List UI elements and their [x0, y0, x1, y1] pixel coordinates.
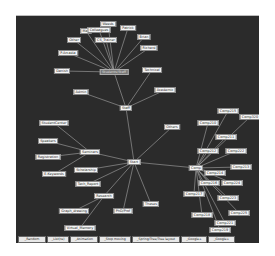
toolbar-button-5[interactable]: _Google+ — [181, 236, 207, 244]
graph-node-comp217[interactable]: Comp217 — [184, 191, 205, 197]
graph-node-technical[interactable]: Technical — [142, 67, 162, 73]
graph-node-comp211[interactable]: Comp211 — [216, 134, 237, 140]
graph-edge — [114, 72, 126, 108]
graph-edge — [126, 108, 134, 162]
graph-node-hub_right[interactable]: Comp — [189, 165, 203, 171]
toolbar-button-4[interactable]: _Spring/Tree/Tree layout — [132, 236, 180, 244]
graph-node-comp219[interactable]: Comp219 — [210, 227, 231, 233]
graph-node-staff[interactable]: Staff — [120, 105, 132, 111]
graph-node-cs_trainer[interactable]: CS_Trainer — [95, 37, 117, 43]
graph-node-comp214[interactable]: Comp214 — [205, 170, 226, 176]
graph-node-scholarship[interactable]: Scholarship — [74, 167, 98, 173]
graph-node-comp223[interactable]: Comp223 — [218, 195, 239, 201]
graph-node-graph_drawing[interactable]: Graph_drawing — [59, 208, 89, 214]
graph-node-speakers[interactable]: Speakers — [38, 138, 58, 144]
graph-edge — [134, 162, 151, 204]
graph-node-tech_report[interactable]: Tech_Report — [76, 181, 101, 187]
graph-node-colleagues[interactable]: Colleagues — [87, 27, 110, 33]
graph-node-comp225[interactable]: Comp225 — [229, 210, 250, 216]
graph-edge — [123, 162, 134, 211]
graph-node-academic[interactable]: Academic — [155, 87, 176, 93]
graph-edge — [54, 123, 90, 152]
graph-edges — [16, 16, 259, 243]
toolbar-button-6[interactable]: _Google+ — [208, 236, 235, 244]
graph-node-research[interactable]: Research — [94, 193, 114, 199]
graph-node-comp222[interactable]: Comp222 — [226, 148, 247, 154]
toolbar-button-0[interactable]: _Random — [18, 236, 46, 244]
graph-edge — [106, 40, 114, 72]
toolbar-button-3[interactable]: _Stop moving — [99, 236, 131, 244]
graph-node-admin[interactable]: Admin — [73, 89, 88, 95]
layout-toolbar: _Random_List(re)_Animation_Stop moving_S… — [16, 235, 259, 242]
toolbar-button-1[interactable]: _List(re) — [47, 236, 69, 244]
graph-node-hub_top[interactable]: Students/Staff — [100, 69, 129, 75]
graph-node-theses[interactable]: Theses — [143, 201, 159, 207]
graph-node-seminars[interactable]: Seminars — [80, 149, 100, 155]
graph-edge — [104, 162, 134, 196]
graph-node-root[interactable]: Start — [128, 159, 141, 165]
graph-node-danish[interactable]: Danish — [54, 68, 70, 74]
graph-node-comp218[interactable]: Comp218 — [192, 212, 213, 218]
graph-edge — [134, 127, 172, 162]
graph-node-phd_prof[interactable]: PhD/Prof — [114, 208, 133, 214]
graph-node-comp215[interactable]: Comp215 — [218, 108, 239, 114]
graph-node-studentcenter[interactable]: StudentCenter — [39, 120, 68, 126]
graph-canvas[interactable]: StartStaffStudents/StaffWeedsPatrickMaxC… — [16, 15, 259, 243]
graph-node-comp212[interactable]: Comp212 — [198, 148, 219, 154]
graph-node-ekeywords[interactable]: E.Keywords — [42, 171, 66, 177]
graph-node-brian[interactable]: Brian — [137, 34, 150, 40]
graph-node-other_top[interactable]: Other — [67, 37, 81, 43]
graph-node-comp320[interactable]: Comp320 — [240, 114, 259, 120]
graph-edge — [74, 40, 114, 72]
graph-edge — [114, 28, 128, 72]
graph-node-comp216[interactable]: Comp216 — [199, 180, 220, 186]
graph-node-others[interactable]: Others — [164, 124, 180, 130]
graph-node-comp213[interactable]: Comp213 — [231, 164, 252, 170]
graph-node-richard[interactable]: Richard — [140, 45, 157, 51]
toolbar-button-2[interactable]: _Animation — [70, 236, 98, 244]
graph-node-registration[interactable]: Registration — [36, 154, 61, 160]
graph-node-patrick[interactable]: Patrick — [120, 25, 136, 31]
graph-node-pasadena[interactable]: P.Arcadia — [58, 50, 78, 56]
graph-edge — [126, 70, 152, 108]
graph-node-comp224[interactable]: Comp224 — [222, 180, 243, 186]
graph-node-comp221[interactable]: Comp221 — [215, 220, 236, 226]
graph-node-virtual_memory[interactable]: Virtual_Memory — [65, 225, 96, 231]
graph-edge — [134, 162, 196, 168]
graph-node-comp210[interactable]: Comp210 — [198, 120, 219, 126]
graph-edge — [196, 123, 208, 168]
